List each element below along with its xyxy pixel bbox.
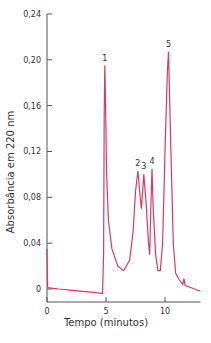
peak-label: 4	[149, 157, 154, 166]
peak-labels: 12345	[102, 40, 171, 172]
x-tick-label: 5	[103, 307, 108, 316]
peak-label: 3	[141, 162, 146, 171]
y-tick-label: 0,08	[23, 193, 41, 202]
y-axis-label: Absorbância em 220 nm	[5, 111, 16, 233]
data-line	[47, 52, 200, 294]
y-tick-label: 0,16	[23, 102, 41, 111]
y-tick-label: 0	[36, 285, 41, 294]
y-tick-label: 0,12	[23, 147, 41, 156]
chromatogram-chart: 00,040,080,120,160,200,240510 12345 Temp…	[0, 0, 211, 343]
peak-label: 5	[166, 40, 171, 49]
y-tick-label: 0,04	[23, 239, 41, 248]
x-axis-label: Tempo (minutos)	[63, 317, 148, 328]
axes: 00,040,080,120,160,200,240510	[23, 10, 200, 316]
x-tick-label: 0	[44, 307, 49, 316]
x-tick-label: 10	[160, 307, 170, 316]
y-tick-label: 0,24	[23, 10, 41, 19]
y-tick-label: 0,20	[23, 56, 41, 65]
peak-label: 1	[102, 54, 107, 63]
peak-label: 2	[135, 159, 140, 168]
